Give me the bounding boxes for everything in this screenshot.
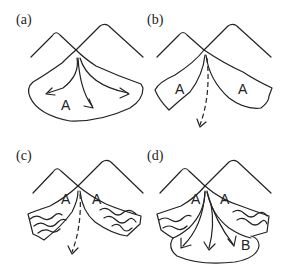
panel-a: (a) A: [0, 0, 145, 136]
fan-label-a-right: A: [238, 81, 248, 97]
mountain-ridge: [160, 160, 271, 193]
panel-d: (d) A A B: [145, 136, 291, 273]
wavy-line: [104, 216, 136, 223]
mountain-ridge: [31, 24, 143, 57]
fan-label-b: B: [241, 237, 250, 253]
fan-diagram-a: A: [0, 0, 145, 136]
wavy-line: [100, 208, 136, 215]
fan-diagram-b: A A: [145, 0, 291, 136]
wavy-line: [237, 218, 267, 225]
fan-label-a: A: [61, 97, 71, 113]
fan-label-a-right: A: [92, 191, 102, 207]
flow-arrow: [80, 58, 128, 93]
dashed-flow-arrow: [200, 58, 208, 125]
panel-c: (c) A A: [0, 136, 145, 273]
fan-label-a-left: A: [175, 81, 185, 97]
wavy-line: [112, 224, 132, 231]
mountain-ridge: [157, 24, 271, 57]
fan-label-a-right: A: [220, 191, 230, 207]
fan-diagram-d: A A B: [145, 136, 291, 273]
panel-b: (b) A A: [145, 0, 291, 136]
wavy-line: [159, 215, 191, 221]
fan-label-a-left: A: [61, 191, 71, 207]
fan-diagram-c: A A: [0, 136, 145, 273]
wavy-line: [163, 226, 187, 230]
fan-label-a-left: A: [191, 191, 201, 207]
mountain-ridge: [33, 160, 143, 193]
flow-arrow: [209, 204, 213, 248]
wavy-line: [30, 214, 62, 220]
flow-arrow: [78, 58, 92, 106]
